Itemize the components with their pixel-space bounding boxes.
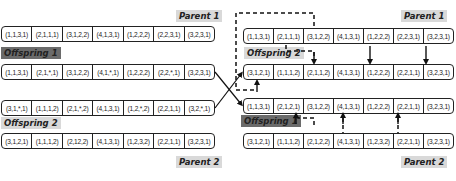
dashed-path-icon <box>236 13 398 133</box>
connector-arrows <box>0 0 456 181</box>
